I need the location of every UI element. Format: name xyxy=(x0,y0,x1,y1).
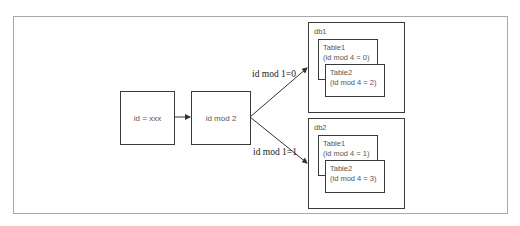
db1-table1-rule: (id mod 4 = 0) xyxy=(323,53,377,63)
router-node: id mod 2 xyxy=(191,91,251,145)
db1-table1-name: Table1 xyxy=(323,43,377,53)
db2-table1-rule: (id mod 4 = 1) xyxy=(323,149,377,159)
edge-label-db2: id mod 1=1 xyxy=(253,147,297,157)
db2-label: db2 xyxy=(314,123,327,132)
db1-container: db1 Table1 (id mod 4 = 0) Table2 (id mod… xyxy=(308,22,405,113)
db1-table2-name: Table2 xyxy=(330,68,384,78)
connector-lines xyxy=(0,0,520,226)
edge-label-db1: id mod 1=0 xyxy=(252,69,296,79)
db2-table1-name: Table1 xyxy=(323,139,377,149)
db1-table2: Table2 (id mod 4 = 2) xyxy=(325,64,385,97)
db2-table2: Table2 (id mod 4 = 3) xyxy=(325,160,385,193)
input-node: id = xxx xyxy=(120,91,175,145)
db2-container: db2 Table1 (id mod 4 = 1) Table2 (id mod… xyxy=(308,118,405,209)
input-node-label: id = xxx xyxy=(134,114,161,123)
db2-table2-rule: (id mod 4 = 3) xyxy=(330,174,384,184)
db1-table2-rule: (id mod 4 = 2) xyxy=(330,78,384,88)
router-node-label: id mod 2 xyxy=(206,114,237,123)
db2-table2-name: Table2 xyxy=(330,164,384,174)
db1-label: db1 xyxy=(314,27,327,36)
